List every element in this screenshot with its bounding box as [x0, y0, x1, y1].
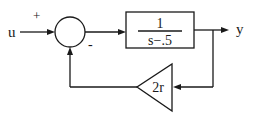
output-arrow: [194, 27, 229, 33]
block-diagram: u + - 1 s−.5 y 2r: [0, 0, 262, 120]
feedback-path-left: [67, 47, 137, 87]
input-label: u: [8, 24, 16, 40]
output-label: y: [236, 21, 244, 37]
feedback-gain-label: 2r: [152, 80, 164, 95]
plus-sign: +: [33, 8, 40, 23]
forward-arrow: [85, 29, 126, 35]
minus-sign: -: [88, 37, 93, 52]
summing-junction: [55, 17, 85, 47]
tf-numerator: 1: [157, 16, 164, 31]
tf-denominator: s−.5: [148, 33, 172, 48]
input-arrow: [20, 29, 55, 35]
